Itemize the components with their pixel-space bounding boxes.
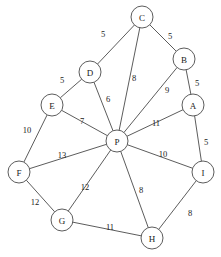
edge-f-g <box>26 180 54 212</box>
node-c: C <box>131 6 153 28</box>
node-a: A <box>182 94 204 116</box>
node-e: E <box>41 94 63 116</box>
edge-weight-a-p: 11 <box>152 118 160 128</box>
edge-weight-b-p: 9 <box>165 85 169 95</box>
node-d: D <box>79 61 101 83</box>
node-label-p: P <box>114 137 119 147</box>
edge-f-p <box>29 144 106 168</box>
edge-h-i <box>159 181 197 230</box>
node-i: I <box>192 161 214 183</box>
edge-weight-h-i: 8 <box>188 208 192 218</box>
node-label-i: I <box>202 168 205 178</box>
node-p: P <box>106 130 128 152</box>
node-label-g: G <box>59 216 66 226</box>
edge-weight-e-d: 5 <box>60 75 64 85</box>
edge-weight-c-b: 5 <box>168 31 172 41</box>
edge-weight-i-p: 10 <box>159 149 168 159</box>
node-label-d: D <box>87 68 94 78</box>
node-label-h: H <box>149 234 156 244</box>
node-label-b: B <box>181 55 187 65</box>
node-label-a: A <box>190 101 197 111</box>
edge-c-p <box>119 28 140 130</box>
edge-weight-g-h: 11 <box>106 222 114 232</box>
edge-weight-d-p: 6 <box>106 94 110 104</box>
edge-e-p <box>62 110 108 135</box>
node-label-c: C <box>139 13 145 23</box>
edge-weight-c-p: 8 <box>132 73 136 83</box>
edge-weight-f-p: 13 <box>58 150 67 160</box>
graph-canvas: 5558596107115131012812811 CBDAEPFIGH <box>0 0 221 257</box>
edge-weight-e-f: 10 <box>23 125 32 135</box>
weighted-graph-diagram: 5558596107115131012812811 CBDAEPFIGH <box>0 0 221 257</box>
edge-h-p <box>121 151 149 227</box>
node-h: H <box>141 227 163 249</box>
nodes-layer: CBDAEPFIGH <box>8 6 214 249</box>
node-f: F <box>8 161 30 183</box>
edge-weight-f-g: 12 <box>31 197 40 207</box>
node-label-f: F <box>16 168 21 178</box>
edge-c-b <box>150 25 176 51</box>
edge-weight-d-c: 5 <box>101 29 105 39</box>
edge-weight-e-p: 7 <box>80 116 84 126</box>
edge-weight-g-p: 12 <box>81 182 90 192</box>
node-b: B <box>173 48 195 70</box>
edge-d-p <box>94 82 113 131</box>
node-g: G <box>51 209 73 231</box>
node-label-e: E <box>49 101 55 111</box>
edge-weight-a-i: 5 <box>204 137 208 147</box>
edge-b-a <box>186 70 191 94</box>
edge-g-p <box>68 150 110 211</box>
edge-weight-h-p: 8 <box>139 185 143 195</box>
edge-a-i <box>195 116 202 161</box>
edge-e-f <box>24 115 47 162</box>
edge-weight-b-a: 5 <box>195 78 199 88</box>
